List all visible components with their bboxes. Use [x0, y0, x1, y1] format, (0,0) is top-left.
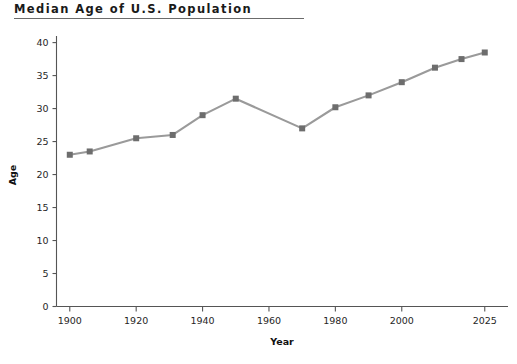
- y-tick-label: 40: [36, 37, 48, 48]
- y-tick-label: 25: [36, 136, 48, 147]
- y-tick-label: 0: [42, 301, 48, 312]
- y-axis-title: Age: [7, 165, 18, 186]
- y-tick-label: 20: [36, 169, 48, 180]
- data-point-marker: [459, 56, 465, 62]
- x-axis-ticks: 1900192019401960198020002025: [58, 307, 497, 326]
- y-tick-label: 15: [36, 202, 48, 213]
- y-axis-ticks: 0510152025303540: [36, 37, 56, 312]
- data-point-marker: [200, 112, 206, 118]
- series-line-median-age: [70, 52, 485, 154]
- x-tick-label: 2025: [473, 315, 497, 326]
- data-point-marker: [233, 96, 239, 102]
- data-point-marker: [133, 135, 139, 141]
- series-markers: [67, 49, 488, 157]
- y-tick-label: 30: [36, 103, 48, 114]
- data-point-marker: [67, 152, 73, 158]
- x-tick-label: 2000: [390, 315, 414, 326]
- data-point-marker: [432, 65, 438, 71]
- x-tick-label: 1940: [190, 315, 214, 326]
- data-point-marker: [482, 49, 488, 55]
- x-tick-label: 1900: [58, 315, 82, 326]
- plot-area: 0510152025303540 19001920194019601980200…: [0, 0, 517, 364]
- x-axis-title: Year: [269, 336, 294, 347]
- data-point-marker: [87, 148, 93, 154]
- y-tick-label: 10: [36, 235, 48, 246]
- data-point-marker: [399, 79, 405, 85]
- line-chart-svg: 0510152025303540 19001920194019601980200…: [0, 0, 517, 364]
- x-tick-label: 1980: [323, 315, 347, 326]
- data-point-marker: [299, 125, 305, 131]
- data-point-marker: [170, 132, 176, 138]
- x-tick-label: 1920: [124, 315, 148, 326]
- data-point-marker: [366, 92, 372, 98]
- y-tick-label: 35: [36, 70, 48, 81]
- y-tick-label: 5: [42, 268, 48, 279]
- chart-page: Median Age of U.S. Population 0510152025…: [0, 0, 517, 364]
- x-tick-label: 1960: [257, 315, 281, 326]
- data-point-marker: [332, 104, 338, 110]
